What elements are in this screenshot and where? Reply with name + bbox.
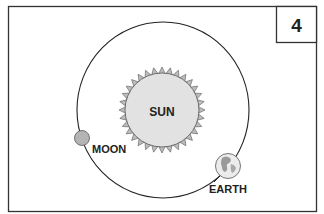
panel-number: 4 (291, 15, 302, 36)
sun-label: SUN (149, 105, 174, 119)
solar-diagram: 4 SUN MOON EARTH (0, 0, 324, 214)
moon-icon (75, 131, 90, 146)
moon-label: MOON (92, 143, 126, 155)
earth-label: EARTH (209, 183, 247, 195)
earth-icon (216, 154, 241, 179)
